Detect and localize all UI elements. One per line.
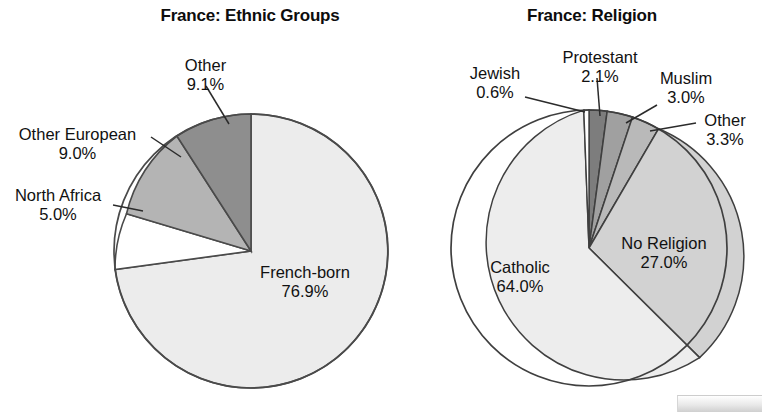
chart-canvas: France: Ethnic Groups France: Religion <box>0 0 762 412</box>
pie-label-no-religion: No Religion 27.0% <box>601 234 727 272</box>
pie-label-protestant: Protestant 2.1% <box>545 48 655 86</box>
pie-label-catholic: Catholic 64.0% <box>468 258 572 296</box>
pie-label-no-religion-value: 27.0% <box>601 253 727 272</box>
pie-label-jewish: Jewish 0.6% <box>455 64 535 102</box>
pie-label-other-european-value: 9.0% <box>5 144 150 163</box>
pie-label-jewish-name: Jewish <box>455 64 535 83</box>
pie-label-catholic-value: 64.0% <box>468 277 572 296</box>
pie-label-other-religion-name: Other <box>690 111 760 130</box>
pie-label-north-africa-name: North Africa <box>3 186 113 205</box>
pie-label-french-born-value: 76.9% <box>245 282 365 301</box>
pie-label-catholic-name: Catholic <box>468 258 572 277</box>
pie-label-other-european: Other European 9.0% <box>5 125 150 163</box>
pie-label-muslim: Muslim 3.0% <box>645 69 727 107</box>
pie-label-other-ethnic: Other 9.1% <box>148 56 263 94</box>
pie-label-french-born: French-born 76.9% <box>245 263 365 301</box>
pie-label-other-ethnic-name: Other <box>148 56 263 75</box>
pie-label-north-africa-value: 5.0% <box>3 205 113 224</box>
page-corner-artifact <box>677 395 762 412</box>
pie-label-other-ethnic-value: 9.1% <box>148 75 263 94</box>
pie-label-muslim-name: Muslim <box>645 69 727 88</box>
pie-ethnic-groups <box>113 86 388 388</box>
pie-label-protestant-name: Protestant <box>545 48 655 67</box>
pie-label-north-africa: North Africa 5.0% <box>3 186 113 224</box>
pie-label-muslim-value: 3.0% <box>645 88 727 107</box>
pie-label-french-born-name: French-born <box>245 263 365 282</box>
pie-label-other-religion: Other 3.3% <box>690 111 760 149</box>
pie-label-other-religion-value: 3.3% <box>690 130 760 149</box>
pie-label-no-religion-name: No Religion <box>601 234 727 253</box>
pie-label-jewish-value: 0.6% <box>455 83 535 102</box>
pie-label-other-european-name: Other European <box>5 125 150 144</box>
pie-label-protestant-value: 2.1% <box>545 67 655 86</box>
